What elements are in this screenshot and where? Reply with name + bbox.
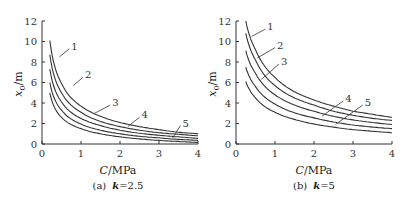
y-axis-label-b: x0/m (206, 71, 221, 97)
x-tick-label: 0 (233, 148, 239, 159)
x-tick-label: 0 (39, 148, 45, 159)
curve-label-1: 1 (267, 21, 273, 32)
curve-label-1: 1 (71, 41, 77, 52)
curve-label-2: 2 (277, 40, 283, 51)
y-tick-label: 8 (225, 57, 231, 68)
x-tick-label: 2 (311, 148, 317, 159)
y-tick-label: 12 (218, 16, 231, 27)
curve-label-3: 3 (112, 97, 118, 108)
curve-label-3: 3 (281, 56, 287, 67)
curve-label-leader (252, 29, 266, 36)
caption-b: (b)k=5 (293, 180, 335, 191)
x-tick-label: 3 (350, 148, 356, 159)
x-tick-label: 1 (272, 148, 278, 159)
curve-3 (50, 69, 198, 138)
y-tick-label: 4 (225, 98, 231, 109)
chart-figure: 0123402468101212345 0123402468101212345 … (0, 0, 408, 203)
y-tick-label: 6 (225, 77, 231, 88)
y-tick-label: 2 (225, 118, 231, 129)
curve-label-leader (257, 48, 275, 58)
axes-lines (42, 21, 198, 144)
curve-label-4: 4 (345, 93, 351, 104)
x-axis-label-b: C/MPa (296, 164, 333, 177)
curve-label-leader (95, 105, 111, 113)
x-tick-label: 1 (78, 148, 84, 159)
x-tick-label: 4 (389, 148, 395, 159)
svg-text:x0/m: x0/m (12, 71, 27, 97)
curve-label-5: 5 (182, 118, 188, 129)
svg-text:x0/m: x0/m (206, 71, 221, 97)
chart-panel-b: 0123402468101212345 (218, 16, 395, 160)
y-tick-label: 10 (218, 36, 231, 47)
y-tick-label: 2 (31, 118, 37, 129)
y-tick-label: 10 (24, 36, 37, 47)
x-axis-label-a: C/MPa (100, 164, 137, 177)
curve-label-leader (60, 49, 70, 57)
x-tick-label: 2 (117, 148, 123, 159)
chart-panel-a: 0123402468101212345 (24, 16, 201, 160)
curve-label-4: 4 (142, 109, 148, 120)
y-tick-label: 0 (225, 139, 231, 150)
x-tick-label: 3 (156, 148, 162, 159)
y-tick-label: 12 (24, 16, 37, 27)
axes-lines (236, 21, 392, 144)
y-tick-label: 0 (31, 139, 37, 150)
curve-5 (50, 93, 198, 143)
y-tick-label: 8 (31, 57, 37, 68)
curve-label-leader (261, 64, 279, 79)
y-tick-label: 6 (31, 77, 37, 88)
curve-label-2: 2 (85, 69, 91, 80)
curve-label-leader (73, 77, 83, 85)
curve-label-5: 5 (365, 97, 371, 108)
y-axis-label-a: x0/m (12, 71, 27, 97)
y-tick-label: 4 (31, 98, 37, 109)
caption-a: (a)k=2.5 (93, 180, 144, 191)
x-tick-label: 4 (195, 148, 201, 159)
